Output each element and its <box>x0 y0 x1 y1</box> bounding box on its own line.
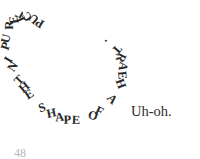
caption-glyph: E <box>22 87 36 102</box>
caption-glyph: K <box>13 10 28 24</box>
caption-glyph: H <box>17 79 32 95</box>
caption-glyph: U <box>0 33 13 45</box>
caption-glyph: R <box>3 21 15 30</box>
caption-glyph: A <box>54 111 64 124</box>
dialogue-uh-oh: Uh-oh. <box>131 104 172 119</box>
caption-glyph: H <box>45 106 57 120</box>
caption-glyph: F <box>93 104 105 118</box>
caption-glyph: E <box>7 14 21 24</box>
caption-glyph: P <box>0 40 13 52</box>
page-number: 48 <box>14 147 26 159</box>
caption-glyph: P <box>33 16 46 31</box>
caption-glyph: A <box>116 61 130 72</box>
caption-glyph: R <box>113 51 128 64</box>
caption-glyph: S <box>37 101 48 115</box>
caption-glyph: E <box>72 114 81 127</box>
caption-glyph: T <box>109 42 124 56</box>
caption-glyph: P <box>63 113 71 126</box>
caption-glyph: E <box>116 71 129 80</box>
caption-glyph: H <box>113 77 128 90</box>
caption-glyph: U <box>26 11 41 26</box>
caption-glyph: A <box>104 92 119 107</box>
caption-glyph: I <box>2 55 15 65</box>
caption-glyph: . <box>103 37 112 49</box>
caption-glyph: C <box>19 9 34 24</box>
caption-glyph: O <box>86 108 99 123</box>
caption-glyph: T <box>12 73 27 88</box>
caption-glyph: N <box>5 60 20 74</box>
comic-panel: PUCKERUPINTHESHAPEOFAHEART. Uh-oh. 48 <box>0 0 200 159</box>
heart-shaped-caption: PUCKERUPINTHESHAPEOFAHEART. <box>0 0 200 159</box>
